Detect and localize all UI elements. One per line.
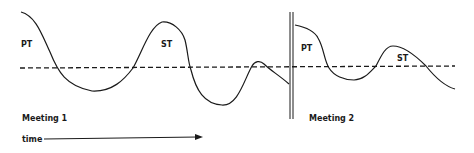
meeting-1-curve: [21, 12, 289, 105]
time-arrow-icon: [44, 134, 203, 140]
meeting-2-pt-label: PT: [301, 44, 313, 53]
time-label: time: [22, 135, 43, 144]
meeting-1-pt-label: PT: [21, 40, 33, 49]
baseline-dashed: [20, 66, 455, 68]
meeting-2-label: Meeting 2: [309, 114, 354, 123]
meeting-1-label: Meeting 1: [22, 114, 68, 123]
meeting-separator: [290, 12, 293, 119]
pt-st-meeting-diagram: PT ST PT ST Meeting 1 Meeting 2 time: [0, 0, 474, 153]
meeting-2-st-label: ST: [397, 54, 409, 63]
meeting-2-curve: [295, 25, 455, 89]
meeting-1-st-label: ST: [161, 40, 173, 49]
